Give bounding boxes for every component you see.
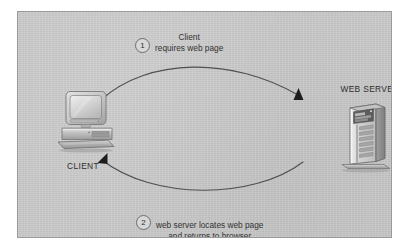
step-1-number: 1 bbox=[135, 38, 150, 53]
client-caption: CLIENT bbox=[48, 161, 118, 171]
floppy-drive-slot bbox=[92, 131, 109, 133]
step-1-label: 1 Client requires web page bbox=[135, 32, 223, 53]
step-1-text: Client requires web page bbox=[155, 32, 223, 53]
server-front-rail bbox=[356, 124, 357, 162]
step-2-text: web server locates web page and returns … bbox=[156, 220, 263, 238]
request-arrowhead bbox=[294, 88, 304, 100]
server-tower-icon bbox=[338, 98, 392, 176]
desktop-computer-icon bbox=[56, 90, 118, 160]
web-server-caption: WEB SERVER bbox=[329, 84, 392, 94]
server-base-plate bbox=[342, 165, 390, 169]
step-2-label: 2 web server locates web page and return… bbox=[136, 215, 263, 238]
step-2-number: 2 bbox=[136, 215, 151, 230]
response-arrow bbox=[98, 153, 304, 190]
cd-drive-slot bbox=[92, 135, 109, 137]
diagram-frame: 1 Client requires web page 2 web server … bbox=[17, 11, 392, 238]
request-arrow bbox=[101, 67, 304, 100]
monitor-stand bbox=[82, 124, 91, 127]
server-side-panel bbox=[376, 104, 385, 162]
diagram-canvas: 1 Client requires web page 2 web server … bbox=[0, 0, 409, 251]
